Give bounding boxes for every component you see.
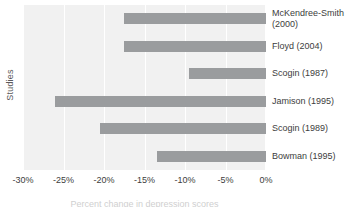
category-label: Scogin (1987) [272, 68, 364, 79]
category-label: Bowman (1995) [272, 151, 364, 162]
bar[interactable] [55, 96, 266, 107]
y-axis-title: Studies [0, 0, 20, 170]
bar[interactable] [157, 151, 266, 162]
bar[interactable] [100, 123, 266, 134]
bar-series [23, 5, 266, 170]
bar-row [23, 33, 266, 61]
bar[interactable] [124, 41, 266, 52]
bar-row [23, 88, 266, 116]
x-tick-label: 0% [259, 175, 272, 185]
y-axis-title-text: Studies [5, 69, 15, 100]
x-axis-title: Percent change in depression scores [23, 199, 266, 207]
bar[interactable] [189, 68, 266, 79]
bar[interactable] [124, 13, 266, 24]
x-tick-label: -25% [53, 175, 74, 185]
category-label: McKendree-Smith (2000) [272, 8, 364, 30]
x-tick-label: -5% [217, 175, 233, 185]
category-labels: McKendree-Smith (2000)Floyd (2004)Scogin… [272, 5, 364, 170]
plot-area [23, 5, 266, 170]
bar-row [23, 5, 266, 33]
bar-row [23, 60, 266, 88]
bar-chart: Studies McKendree-Smith (2000)Floyd (200… [0, 0, 364, 207]
x-tick-label: -10% [174, 175, 195, 185]
x-tick-label: -15% [134, 175, 155, 185]
bar-row [23, 143, 266, 171]
category-label: Scogin (1989) [272, 123, 364, 134]
bar-row [23, 115, 266, 143]
category-label: Jamison (1995) [272, 96, 364, 107]
category-label: Floyd (2004) [272, 41, 364, 52]
x-tick-label: -20% [93, 175, 114, 185]
x-tick-label: -30% [12, 175, 33, 185]
x-axis: -30%-25%-20%-15%-10%-5%0% [23, 170, 266, 192]
